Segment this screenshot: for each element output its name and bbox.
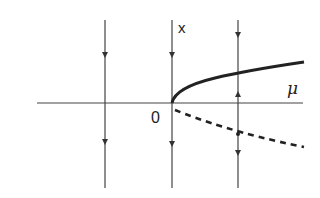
arrow-down-icon	[169, 52, 175, 58]
bifurcation-diagram: x μ 0	[0, 0, 320, 198]
x-axis-label: x	[178, 20, 186, 35]
arrow-up-icon	[235, 91, 241, 97]
arrow-down-icon	[235, 150, 241, 156]
fixed-point-marker	[236, 132, 240, 136]
origin-label: 0	[151, 110, 160, 126]
mu-axis-label: μ	[287, 80, 298, 97]
arrow-down-icon	[235, 32, 241, 38]
arrow-down-icon	[102, 139, 108, 145]
unstable-branch-curve	[175, 110, 304, 147]
diagram-canvas	[0, 0, 320, 198]
arrow-down-icon	[169, 141, 175, 147]
arrow-down-icon	[102, 52, 108, 58]
